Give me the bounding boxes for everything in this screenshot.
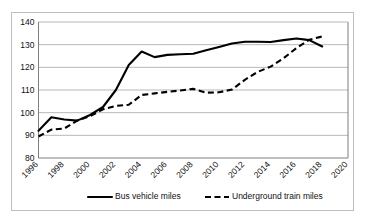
legend-label: Bus vehicle miles	[115, 191, 181, 201]
y-axis-tick-label: 110	[21, 85, 35, 95]
chart-legend: Bus vehicle milesUnderground train miles	[88, 191, 323, 201]
y-axis-tick-label: 120	[20, 62, 34, 72]
legend-label: Underground train miles	[232, 191, 323, 201]
y-axis-tick-labels: 8090100110120130140	[20, 17, 34, 163]
series-line-solid	[39, 39, 323, 131]
line-chart: 8090100110120130140 19961998200020022004…	[0, 0, 366, 223]
gridlines	[39, 22, 349, 158]
x-axis-tick-label: 2002	[97, 159, 118, 180]
series-line-dashed	[39, 37, 323, 137]
y-axis-tick-label: 100	[20, 108, 34, 118]
x-axis-tick-label: 2018	[303, 159, 324, 180]
x-axis-tick-label: 2000	[71, 159, 92, 180]
data-series	[39, 37, 323, 137]
x-axis-tick-labels: 1996199820002002200420062008201020122014…	[19, 159, 349, 180]
x-axis-tick-label: 1998	[45, 159, 66, 180]
x-axis-tick-label: 2012	[226, 159, 247, 180]
x-axis-tick-label: 2006	[148, 159, 169, 180]
x-axis-tick-label: 2020	[329, 159, 350, 180]
x-axis-tick-label: 2014	[252, 159, 273, 180]
x-axis-tick-label: 1996	[19, 159, 40, 180]
x-axis-tick-label: 2016	[277, 159, 298, 180]
x-axis-tick-label: 2008	[174, 159, 195, 180]
x-axis-tick-label: 2004	[123, 159, 144, 180]
y-axis-tick-label: 90	[25, 130, 35, 140]
y-axis-tick-label: 140	[20, 17, 34, 27]
chart-canvas: 8090100110120130140 19961998200020022004…	[0, 0, 366, 223]
x-axis-tick-label: 2010	[200, 159, 221, 180]
y-axis-tick-label: 130	[20, 40, 34, 50]
